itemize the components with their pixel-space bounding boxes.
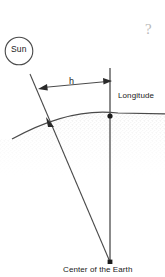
stray-question-mark-icon: ? bbox=[145, 22, 152, 37]
sun-label: Sun bbox=[11, 45, 27, 54]
earth-interior-shading bbox=[0, 105, 165, 175]
longitude-label: Longitude bbox=[118, 92, 154, 100]
diagram-canvas bbox=[0, 0, 165, 277]
center-of-earth-label: Center of the Earth bbox=[63, 266, 133, 274]
hour-angle-left-arrowhead-icon bbox=[38, 84, 48, 91]
earth-sun-hour-angle-diagram: Sun h Longitude Center of the Earth ? bbox=[0, 0, 165, 277]
surface-point-marker bbox=[107, 113, 112, 118]
hour-angle-arrow-shaft bbox=[43, 82, 107, 88]
hour-angle-label: h bbox=[69, 77, 74, 86]
center-of-earth-marker bbox=[108, 260, 113, 264]
